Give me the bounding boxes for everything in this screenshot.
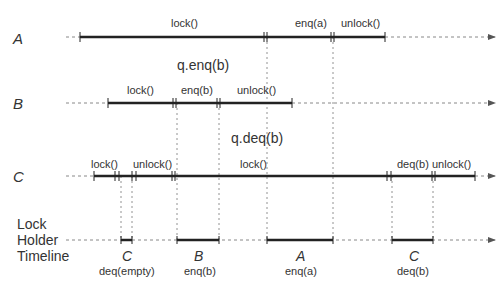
holder-c-2: C (409, 248, 419, 264)
row-label-a: A (13, 30, 23, 47)
a-unlock-label: unlock() (341, 17, 380, 29)
holder-b: B (194, 248, 203, 264)
c-lock2-label: lock() (240, 158, 267, 170)
lock-holder-timeline (66, 236, 495, 244)
row-label-c: C (13, 168, 24, 185)
row-a-timeline (66, 32, 495, 42)
row-c-timeline (66, 171, 495, 181)
holder-a: A (296, 248, 305, 264)
lock-holder-title-3: Timeline (17, 247, 69, 266)
q-enq-annotation: q.enq(b) (177, 57, 229, 73)
holder-a-op: enq(a) (285, 265, 317, 277)
b-enq-label: enq(b) (181, 84, 213, 96)
q-deq-annotation: q.deq(b) (231, 130, 283, 146)
holder-c-2-op: deq(b) (397, 265, 429, 277)
row-b-timeline (66, 98, 495, 108)
b-lock-label: lock() (127, 84, 154, 96)
c-unlock2-label: unlock() (432, 158, 471, 170)
holder-b-op: enq(b) (184, 265, 216, 277)
row-label-b: B (13, 95, 23, 112)
a-lock-label: lock() (171, 17, 198, 29)
a-enq-label: enq(a) (295, 17, 327, 29)
holder-c-1-op: deq(empty) (99, 265, 155, 277)
c-unlock1-label: unlock() (133, 158, 172, 170)
b-unlock-label: unlock() (237, 84, 276, 96)
c-deq-label: deq(b) (397, 158, 429, 170)
c-lock1-label: lock() (91, 158, 118, 170)
holder-c-1: C (122, 248, 132, 264)
